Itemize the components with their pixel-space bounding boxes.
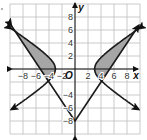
y-axis-label: y	[77, 2, 84, 13]
y-tick-label: 8	[68, 12, 73, 22]
y-tick-label: 6	[68, 25, 73, 35]
y-tick-label: 2	[68, 51, 73, 61]
x-tick-label: 4	[98, 71, 103, 81]
coordinate-graph: −8−6−4−224688642−4−6−8Oxy	[0, 0, 147, 140]
y-tick-label: −8	[63, 116, 73, 126]
axes	[12, 3, 138, 136]
x-axis-label: x	[132, 70, 139, 81]
x-tick-label: 2	[85, 71, 90, 81]
y-tick-label: −6	[63, 103, 73, 113]
x-tick-label: 8	[124, 71, 129, 81]
origin-label: O	[65, 70, 73, 81]
x-tick-label: −8	[18, 71, 28, 81]
x-tick-label: −6	[31, 71, 41, 81]
y-tick-label: −4	[63, 90, 73, 100]
item-marker	[1, 8, 3, 10]
x-tick-label: −4	[44, 71, 54, 81]
y-tick-label: 4	[68, 38, 73, 48]
x-tick-label: 6	[111, 71, 116, 81]
